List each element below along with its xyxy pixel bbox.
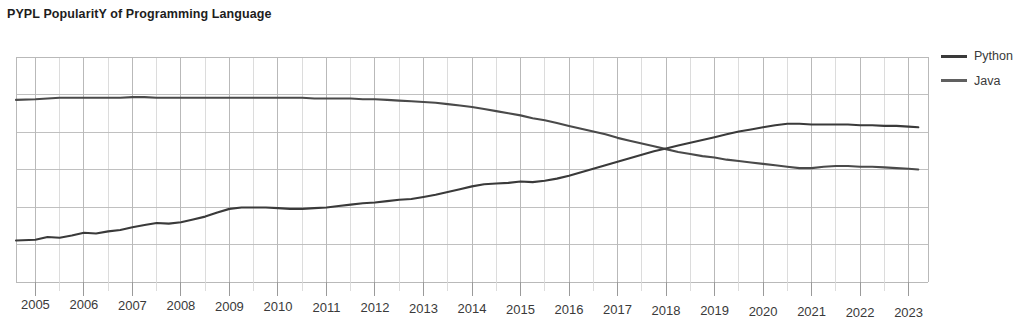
legend-item-java[interactable]: Java xyxy=(941,75,1013,88)
legend-swatch-python xyxy=(941,55,967,58)
legend-label-java: Java xyxy=(974,75,1000,88)
chart-legend: Python Java xyxy=(941,50,1013,87)
legend-swatch-java xyxy=(941,79,967,82)
chart-svg xyxy=(0,0,1027,325)
legend-item-python[interactable]: Python xyxy=(941,50,1013,63)
series-lines xyxy=(16,97,918,240)
plot-area xyxy=(0,0,1027,325)
axis-ticks xyxy=(35,282,908,296)
chart-container: PYPL PopularitY of Programming Language … xyxy=(0,0,1027,325)
legend-label-python: Python xyxy=(974,50,1013,63)
